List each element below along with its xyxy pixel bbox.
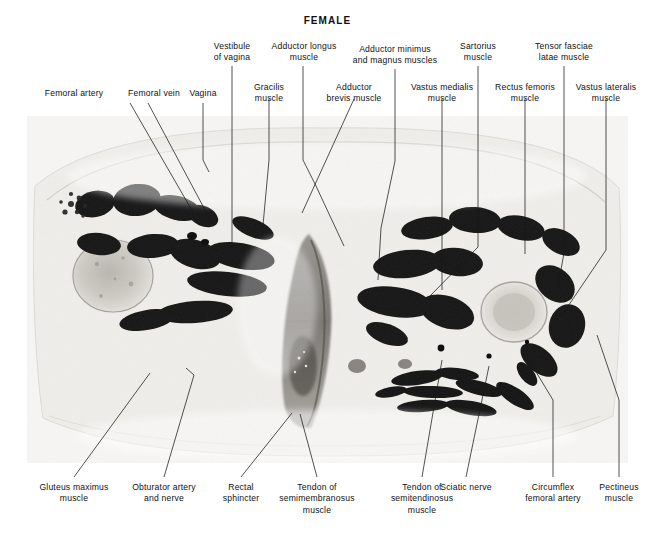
cross-section-image [27,116,628,463]
label-gracilis-muscle: Gracilis muscle [240,82,298,105]
label-sciatic-nerve: Sciatic nerve [424,482,508,493]
label-adductor-brevis-muscle: Adductor brevis muscle [312,82,396,105]
label-pectineus-muscle: Pectineus muscle [585,482,653,505]
anatomy-figure: FEMALE [0,0,655,545]
label-tendon-semimembranosus: Tendon of semimembranosus muscle [263,482,371,516]
label-vestibule-of-vagina: Vestibule of vagina [201,41,263,64]
label-tensor-fasciae-latae-muscle: Tensor fasciae latae muscle [518,41,610,64]
label-gluteus-maximus-muscle: Gluteus maximus muscle [26,482,122,505]
label-vastus-lateralis-muscle: Vastus lateralis muscle [560,82,652,105]
label-adductor-minimus-magnus-muscles: Adductor minimus and magnus muscles [339,44,451,67]
cross-section-photograph [27,116,628,463]
label-vastus-medialis-muscle: Vastus medialis muscle [396,82,488,105]
label-obturator-artery-and-nerve: Obturator artery and nerve [116,482,212,505]
label-femoral-artery: Femoral artery [28,88,120,99]
label-rectus-femoris-muscle: Rectus femoris muscle [481,82,569,105]
figure-title: FEMALE [0,15,655,26]
label-sartorius-muscle: Sartorius muscle [447,41,509,64]
label-adductor-longus-muscle: Adductor longus muscle [256,41,352,64]
label-vagina: Vagina [177,88,229,99]
